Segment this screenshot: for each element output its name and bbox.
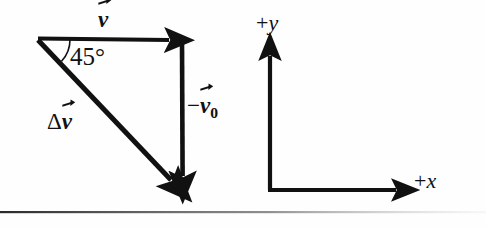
vector-minus-v0 [182, 40, 183, 176]
over-arrow-icon [98, 0, 111, 7]
over-arrow-icon [62, 99, 75, 109]
axis-symbol-y: y [268, 10, 278, 35]
physics-vector-diagram: v 45° Δ v − v0 +y [0, 0, 486, 228]
coordinate-axes [268, 56, 396, 190]
label-angle-45: 45° [70, 44, 105, 69]
label-axis-plus-x: +x [414, 170, 436, 192]
angle-arc [62, 39, 71, 61]
label-vector-minus-v0: − v0 [187, 94, 218, 121]
label-delta-v-symbol: v [62, 109, 72, 134]
label-v0-subscript: 0 [210, 104, 218, 121]
bottom-divider [0, 211, 486, 213]
label-axis-plus-y: +y [256, 12, 278, 34]
plus-sign-y: + [256, 10, 268, 35]
label-delta-symbol: Δ [47, 109, 62, 134]
label-v-symbol: v [98, 7, 108, 32]
plus-sign-x: + [414, 168, 426, 193]
label-minus-sign: − [187, 93, 200, 118]
over-arrow-icon [200, 83, 213, 93]
label-vector-v: v [98, 8, 108, 31]
label-vector-delta-v: Δ v [47, 110, 72, 133]
axis-symbol-x: x [426, 168, 436, 193]
diagram-canvas [0, 0, 486, 228]
vector-v [38, 39, 169, 41]
label-v0-symbol: v [200, 93, 210, 118]
